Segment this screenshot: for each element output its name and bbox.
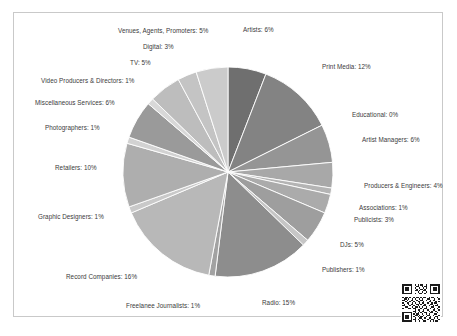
pie-slice-label: Graphic Designers: 1% [38, 214, 104, 220]
pie-slice-label: Photographers: 1% [45, 125, 100, 131]
pie-slice-label: Producers & Engineers: 4% [364, 183, 443, 189]
pie-slice-label: Publicists: 3% [354, 217, 394, 223]
pie-slice-label: TV: 5% [130, 60, 151, 66]
pie-slice-label: Venues, Agents, Promoters: 5% [118, 28, 208, 34]
qr-code[interactable] [401, 283, 441, 323]
pie-chart: Artists: 6%Print Media: 12%Educational: … [0, 0, 457, 336]
pie-slice-label: Radio: 15% [262, 300, 295, 306]
pie-slice-label: DJs: 5% [340, 242, 364, 248]
pie-slice-label: Record Companies: 16% [66, 274, 137, 280]
figure-page: Artists: 6%Print Media: 12%Educational: … [0, 0, 457, 336]
pie-slice-label: Publishers: 1% [322, 267, 365, 273]
pie-slice-label: Video Producers & Directors: 1% [41, 78, 134, 84]
pie-slice-label: Retailers: 10% [55, 165, 97, 171]
pie-slice-label: Artist Managers: 6% [362, 137, 420, 143]
pie-slice-label: Associations: 1% [359, 205, 408, 211]
pie-slice-label: Freelanee Journalists: 1% [126, 303, 200, 309]
figure-caption [13, 327, 443, 336]
pie-slice-label: Educational: 0% [352, 112, 398, 118]
pie-slice-label: Artists: 6% [243, 27, 274, 33]
pie-slice-label: Print Media: 12% [322, 64, 371, 70]
pie-slice-label: Digital: 3% [143, 44, 174, 50]
pie-slice-label: Miscellaneous Services: 6% [35, 100, 115, 106]
